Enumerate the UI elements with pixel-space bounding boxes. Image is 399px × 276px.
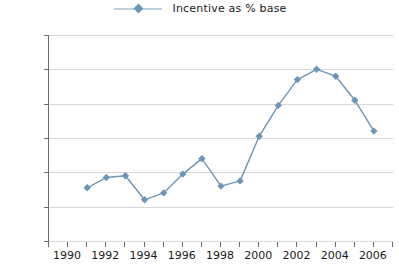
legend-marker-incentive [112,3,164,15]
data-point-marker [370,127,377,134]
x-axis-tick [86,242,87,247]
x-axis-label: 2000 [244,249,272,262]
x-axis-label: 1990 [53,249,81,262]
x-axis-tick [163,242,164,247]
x-axis-tick [335,242,336,247]
x-axis-label: 2006 [359,249,387,262]
x-axis-tick [220,242,221,247]
x-axis-tick [144,242,145,247]
x-axis-tick [182,242,183,247]
x-axis-label: 1996 [168,249,196,262]
x-axis-tick [373,242,374,247]
chart-legend: Incentive as % base [0,2,399,15]
x-axis-tick [239,242,240,247]
x-axis-tick [201,242,202,247]
series-line [87,69,374,200]
x-axis-label: 2004 [321,249,349,262]
x-axis-label: 1992 [91,249,119,262]
x-axis-label: 1998 [206,249,234,262]
x-axis-tick [67,242,68,247]
x-axis-tick [392,242,393,247]
plot-area: 0%20%40%60%80%100%120% [48,35,393,242]
x-axis-tick [316,242,317,247]
data-point-marker [103,174,110,181]
x-axis-tick [258,242,259,247]
x-axis-label: 1994 [130,249,158,262]
x-axis-tick [354,242,355,247]
x-axis-tick [48,242,49,247]
data-point-marker [84,184,91,191]
x-axis-tick [296,242,297,247]
x-axis-label: 2002 [282,249,310,262]
diamond-icon [134,4,144,14]
data-point-marker [236,177,243,184]
x-axis-tick [124,242,125,247]
x-axis-tick [105,242,106,247]
data-point-marker [313,66,320,73]
series-incentive-as-pct-base [49,35,393,241]
x-axis: 199019921994199619982000200220042006 [48,242,392,272]
chart-container: Incentive as % base 0%20%40%60%80%100%12… [0,0,399,276]
x-axis-tick [277,242,278,247]
legend-label-incentive: Incentive as % base [172,2,286,15]
data-point-marker [256,133,263,140]
